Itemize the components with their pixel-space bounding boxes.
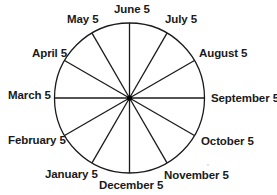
spoke-august — [130, 61, 195, 99]
spoke-november — [130, 98, 168, 163]
spoke-july — [130, 33, 168, 98]
label-july: July 5 — [165, 14, 197, 26]
label-january: January 5 — [45, 169, 98, 181]
label-may: May 5 — [67, 14, 98, 26]
calendar-circle-diagram: June 5 May 5 July 5 April 5 August 5 Mar… — [0, 0, 277, 195]
label-february: February 5 — [8, 135, 66, 147]
center-dot — [127, 95, 132, 100]
scan-speck — [207, 164, 209, 166]
spoke-may — [92, 33, 130, 98]
label-march: March 5 — [8, 90, 51, 102]
label-october: October 5 — [201, 136, 254, 148]
spoke-february — [65, 98, 130, 136]
label-november: November 5 — [164, 170, 229, 182]
label-december: December 5 — [99, 180, 163, 192]
spoke-april — [65, 61, 130, 99]
spoke-january — [92, 98, 130, 163]
label-june: June 5 — [114, 4, 150, 16]
spoke-october — [130, 98, 195, 136]
label-august: August 5 — [199, 48, 247, 60]
label-april: April 5 — [32, 48, 67, 60]
label-september: September 5 — [211, 93, 277, 105]
